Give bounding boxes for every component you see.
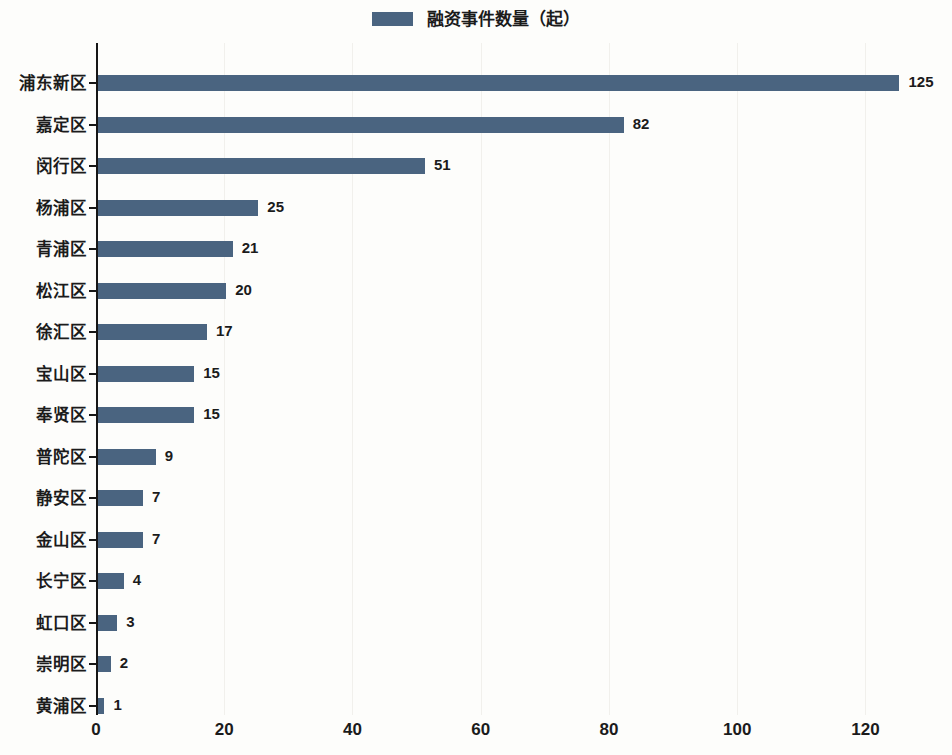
- bar-row: 松江区20: [96, 271, 952, 313]
- bar-row: 普陀区9: [96, 437, 952, 479]
- y-axis-tick: [89, 207, 96, 209]
- bar[interactable]: [98, 283, 226, 299]
- bar-row: 宝山区15: [96, 354, 952, 396]
- y-axis-tick: [89, 456, 96, 458]
- x-tick-label: 100: [723, 719, 751, 741]
- category-label: 奉贤区: [36, 403, 87, 427]
- bar-value-label: 17: [216, 321, 233, 341]
- bar-value-label: 21: [242, 238, 259, 258]
- y-axis-tick: [89, 248, 96, 250]
- bar-chart: 融资事件数量（起） 浦东新区125嘉定区82闵行区51杨浦区25青浦区21松江区…: [0, 0, 952, 755]
- x-tick-label: 120: [851, 719, 879, 741]
- bar[interactable]: [98, 490, 143, 506]
- bar[interactable]: [98, 615, 117, 631]
- category-label: 徐汇区: [36, 320, 87, 344]
- category-label: 长宁区: [36, 569, 87, 593]
- y-axis-tick: [89, 663, 96, 665]
- bar[interactable]: [98, 324, 207, 340]
- bar-value-label: 1: [113, 695, 121, 715]
- y-axis-tick: [89, 580, 96, 582]
- bar[interactable]: [98, 158, 425, 174]
- x-tick-label: 20: [215, 719, 234, 741]
- category-label: 普陀区: [36, 445, 87, 469]
- x-tick-label: 40: [343, 719, 362, 741]
- bar[interactable]: [98, 200, 258, 216]
- bar-value-label: 7: [152, 529, 160, 549]
- y-axis-tick: [89, 165, 96, 167]
- y-axis-tick: [89, 705, 96, 707]
- bar[interactable]: [98, 449, 156, 465]
- bar[interactable]: [98, 698, 104, 714]
- y-axis-tick: [89, 290, 96, 292]
- category-label: 虹口区: [36, 611, 87, 635]
- y-axis-tick: [89, 331, 96, 333]
- y-axis-tick: [89, 124, 96, 126]
- bar-row: 虹口区3: [96, 603, 952, 645]
- category-label: 黄浦区: [36, 694, 87, 718]
- bar-row: 青浦区21: [96, 229, 952, 271]
- category-label: 杨浦区: [36, 196, 87, 220]
- bar[interactable]: [98, 366, 194, 382]
- bar[interactable]: [98, 75, 899, 91]
- category-label: 青浦区: [36, 237, 87, 261]
- category-label: 嘉定区: [36, 113, 87, 137]
- x-tick-label: 80: [599, 719, 618, 741]
- bar-row: 长宁区4: [96, 561, 952, 603]
- y-axis-tick: [89, 539, 96, 541]
- category-label: 崇明区: [36, 652, 87, 676]
- bar-value-label: 82: [633, 114, 650, 134]
- category-label: 闵行区: [36, 154, 87, 178]
- bar-row: 崇明区2: [96, 644, 952, 686]
- bar-value-label: 15: [203, 404, 220, 424]
- category-label: 浦东新区: [19, 71, 87, 95]
- bar-value-label: 3: [126, 612, 134, 632]
- bar-value-label: 2: [120, 653, 128, 673]
- bar[interactable]: [98, 117, 624, 133]
- bar[interactable]: [98, 656, 111, 672]
- bar-value-label: 9: [165, 446, 173, 466]
- bar-row: 杨浦区25: [96, 188, 952, 230]
- bar[interactable]: [98, 532, 143, 548]
- bar-row: 静安区7: [96, 478, 952, 520]
- y-axis-tick: [89, 373, 96, 375]
- chart-legend: 融资事件数量（起）: [0, 4, 952, 34]
- bar[interactable]: [98, 573, 124, 589]
- bar-row: 浦东新区125: [96, 63, 952, 105]
- bar-row: 徐汇区17: [96, 312, 952, 354]
- legend-color-swatch: [372, 12, 413, 26]
- y-axis-tick: [89, 497, 96, 499]
- legend-label: 融资事件数量（起）: [427, 11, 580, 28]
- bar-value-label: 25: [267, 197, 284, 217]
- legend-item-funding-events[interactable]: 融资事件数量（起）: [372, 11, 580, 28]
- category-label: 静安区: [36, 486, 87, 510]
- bar-row: 金山区7: [96, 520, 952, 562]
- plot-area: 浦东新区125嘉定区82闵行区51杨浦区25青浦区21松江区20徐汇区17宝山区…: [96, 43, 952, 715]
- bar-value-label: 20: [235, 280, 252, 300]
- y-axis-tick: [89, 414, 96, 416]
- bar-row: 嘉定区82: [96, 105, 952, 147]
- bar-value-label: 125: [908, 72, 933, 92]
- bar-value-label: 7: [152, 487, 160, 507]
- category-label: 宝山区: [36, 362, 87, 386]
- bar-value-label: 4: [133, 570, 141, 590]
- bar-value-label: 15: [203, 363, 220, 383]
- bar[interactable]: [98, 241, 233, 257]
- y-axis-tick: [89, 82, 96, 84]
- x-tick-label: 0: [91, 719, 100, 741]
- y-axis-tick: [89, 622, 96, 624]
- x-tick-label: 60: [471, 719, 490, 741]
- bar-row: 奉贤区15: [96, 395, 952, 437]
- bar[interactable]: [98, 407, 194, 423]
- bar-row: 闵行区51: [96, 146, 952, 188]
- category-label: 松江区: [36, 279, 87, 303]
- category-label: 金山区: [36, 528, 87, 552]
- bar-value-label: 51: [434, 155, 451, 175]
